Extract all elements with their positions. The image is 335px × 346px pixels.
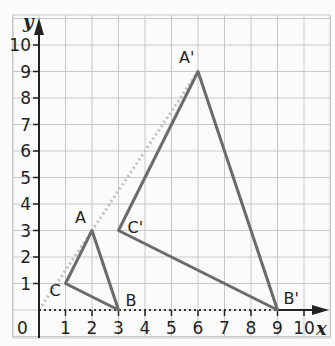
x-tick-label: 9 bbox=[272, 318, 283, 338]
y-axis-arrow-icon bbox=[34, 18, 44, 35]
x-axis-arrow-icon bbox=[312, 305, 329, 315]
y-tick-label: 5 bbox=[20, 168, 31, 188]
vertex-label: C' bbox=[128, 218, 144, 237]
y-tick-label: 1 bbox=[20, 274, 31, 294]
x-tick-label: 4 bbox=[140, 318, 151, 338]
vertex-label: C bbox=[50, 281, 61, 300]
vertex-label: A bbox=[75, 208, 86, 227]
y-tick-label: 2 bbox=[20, 247, 31, 267]
x-tick-label: 10 bbox=[293, 318, 315, 338]
vertex-labels: ABCA'B'C' bbox=[50, 48, 299, 311]
y-tick-label: 6 bbox=[20, 141, 31, 161]
vertex-label: B bbox=[126, 291, 137, 310]
y-tick-label: 9 bbox=[20, 62, 31, 82]
y-tick-label: 7 bbox=[20, 115, 31, 135]
x-tick-label: 2 bbox=[87, 318, 98, 338]
x-axis-label: x bbox=[315, 318, 327, 339]
x-tick-label: 1 bbox=[60, 318, 71, 338]
y-tick-label: 3 bbox=[20, 221, 31, 241]
dotted-guide-lines bbox=[39, 72, 278, 311]
y-axis-label: y bbox=[22, 11, 35, 32]
coordinate-plane: yx01234567891012345678910 ABCA'B'C' bbox=[0, 0, 335, 346]
y-tick-label: 8 bbox=[20, 88, 31, 108]
vertex-label: B' bbox=[284, 289, 299, 308]
x-tick-label: 8 bbox=[246, 318, 257, 338]
x-tick-label: 5 bbox=[166, 318, 177, 338]
y-tick-label: 10 bbox=[9, 35, 31, 55]
vertex-label: A' bbox=[179, 48, 194, 67]
x-tick-label: 7 bbox=[219, 318, 230, 338]
origin-label: 0 bbox=[17, 318, 28, 338]
x-tick-label: 3 bbox=[113, 318, 124, 338]
x-tick-label: 6 bbox=[193, 318, 204, 338]
y-tick-label: 4 bbox=[20, 194, 31, 214]
